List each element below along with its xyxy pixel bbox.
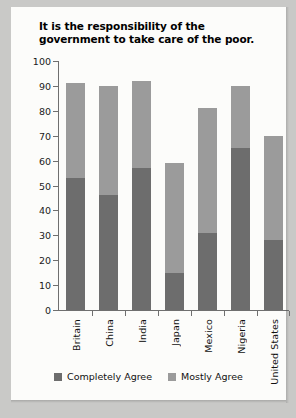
y-tick-label: 30 <box>39 230 51 241</box>
bar-britain <box>66 83 85 310</box>
segment-mostly-agree <box>66 83 85 178</box>
x-tick-mark <box>125 311 126 316</box>
chart-title: It is the responsibility of the governme… <box>39 20 271 46</box>
y-tick-label: 0 <box>45 305 51 316</box>
y-tick-label: 50 <box>39 180 51 191</box>
y-tick-mark <box>53 86 58 87</box>
legend-label: Mostly Agree <box>181 371 243 382</box>
y-tick-label: 10 <box>39 280 51 291</box>
bar-india <box>132 81 151 310</box>
bar-china <box>99 86 118 310</box>
x-tick-mark <box>92 311 93 316</box>
x-label-mexico: Mexico <box>203 319 214 353</box>
y-tick-label: 80 <box>39 105 51 116</box>
y-tick-label: 90 <box>39 80 51 91</box>
x-tick-mark <box>191 311 192 316</box>
bar-nigeria <box>231 86 250 310</box>
segment-mostly-agree <box>264 136 283 241</box>
plot-area: 1009080706050403020100 BritainChinaIndia… <box>58 61 291 310</box>
y-tick-mark <box>53 210 58 211</box>
page-background: It is the responsibility of the governme… <box>0 0 296 418</box>
segment-completely-agree <box>132 168 151 310</box>
legend-label: Completely Agree <box>67 371 152 382</box>
y-tick-mark <box>53 260 58 261</box>
card-shadow-bottom <box>11 400 286 403</box>
segment-completely-agree <box>99 195 118 310</box>
legend-item-mostly-agree: Mostly Agree <box>168 371 243 382</box>
y-tick-mark <box>53 161 58 162</box>
bar-series-group <box>59 61 290 310</box>
bar-japan <box>165 163 184 310</box>
segment-completely-agree <box>231 148 250 310</box>
y-tick-mark <box>53 61 58 62</box>
segment-completely-agree <box>198 233 217 310</box>
segment-mostly-agree <box>99 86 118 196</box>
y-tick-mark <box>53 235 58 236</box>
x-label-nigeria: Nigeria <box>236 319 247 354</box>
legend-swatch <box>54 373 62 381</box>
segment-completely-agree <box>264 240 283 310</box>
legend-swatch <box>168 373 176 381</box>
y-tick-label: 40 <box>39 205 51 216</box>
y-tick-mark <box>53 136 58 137</box>
x-tick-mark <box>224 311 225 316</box>
y-tick-label: 70 <box>39 130 51 141</box>
chart-card: It is the responsibility of the governme… <box>11 7 286 400</box>
segment-completely-agree <box>66 178 85 310</box>
y-tick-label: 20 <box>39 255 51 266</box>
card-shadow-right <box>286 7 289 403</box>
y-tick-mark <box>53 310 58 311</box>
segment-completely-agree <box>165 273 184 310</box>
segment-mostly-agree <box>165 163 184 273</box>
y-tick-label: 100 <box>33 56 51 67</box>
y-tick-label: 60 <box>39 155 51 166</box>
bar-united-states <box>264 136 283 310</box>
segment-mostly-agree <box>198 108 217 233</box>
legend-item-completely-agree: Completely Agree <box>54 371 152 382</box>
bar-mexico <box>198 108 217 310</box>
chart-legend: Completely AgreeMostly Agree <box>11 371 286 382</box>
segment-mostly-agree <box>231 86 250 148</box>
x-label-india: India <box>137 319 148 343</box>
x-tick-mark <box>257 311 258 316</box>
x-label-britain: Britain <box>71 319 82 351</box>
segment-mostly-agree <box>132 81 151 168</box>
y-tick-mark <box>53 186 58 187</box>
x-tick-mark <box>289 311 290 316</box>
y-tick-mark <box>53 111 58 112</box>
x-tick-mark <box>158 311 159 316</box>
x-label-japan: Japan <box>170 319 181 346</box>
y-tick-mark <box>53 285 58 286</box>
x-label-china: China <box>104 319 115 347</box>
